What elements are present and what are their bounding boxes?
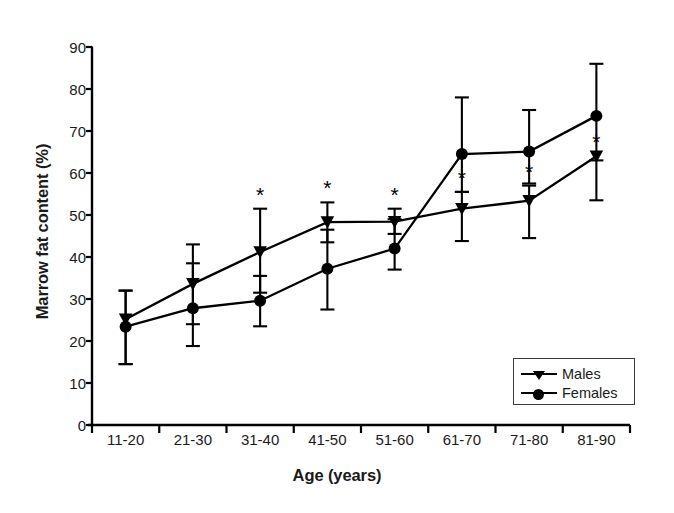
data-point-circle [254, 295, 266, 307]
data-point-circle [187, 302, 199, 314]
y-tick-label: 30 [46, 292, 86, 307]
x-tick-label: 61-70 [428, 432, 495, 447]
x-tick-label: 11-20 [92, 432, 159, 447]
legend-label-males: Males [557, 366, 601, 382]
data-point-circle [321, 263, 333, 275]
legend-label-females: Females [557, 385, 618, 401]
legend-item-females: Females [521, 383, 627, 402]
data-point-circle [389, 243, 401, 255]
x-tick-label: 71-80 [496, 432, 563, 447]
significance-asterisk: * [323, 176, 331, 199]
chart-legend: Males Females [513, 358, 635, 405]
y-tick-label: 60 [46, 166, 86, 181]
data-point-circle [590, 110, 602, 122]
error-bar [589, 156, 603, 200]
y-tick-label: 10 [46, 376, 86, 391]
x-tick-label: 21-30 [159, 432, 226, 447]
y-tick-label: 70 [46, 124, 86, 139]
x-tick-label: 51-60 [361, 432, 428, 447]
error-bar [455, 192, 469, 241]
significance-asterisk: * [256, 183, 264, 206]
triangle-down-icon [521, 367, 557, 381]
y-tick-label: 90 [46, 40, 86, 55]
y-tick-label: 0 [46, 418, 86, 433]
y-tick-label: 40 [46, 250, 86, 265]
x-axis-title: Age (years) [0, 466, 674, 485]
significance-asterisk: * [391, 183, 399, 206]
y-tick-label: 80 [46, 82, 86, 97]
legend-item-males: Males [521, 364, 627, 383]
data-point-circle [523, 146, 535, 158]
data-point-circle [120, 321, 132, 333]
x-tick-label: 81-90 [563, 432, 630, 447]
chart-figure: Marrow fat content (%) Age (years) 01020… [0, 0, 674, 513]
data-point-triangle-down [253, 246, 267, 258]
x-tick-label: 41-50 [294, 432, 361, 447]
circle-icon [521, 386, 557, 400]
data-point-circle [456, 148, 468, 160]
error-bar [522, 186, 536, 239]
y-tick-label: 20 [46, 334, 86, 349]
y-tick-label: 50 [46, 208, 86, 223]
x-tick-label: 31-40 [227, 432, 294, 447]
